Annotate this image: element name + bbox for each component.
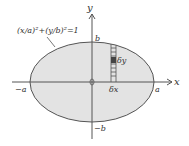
b-label: b bbox=[95, 34, 100, 43]
y-axis-label: y bbox=[86, 2, 93, 13]
dy-label: δy bbox=[117, 56, 127, 65]
ellipse-diagram: (x/a)²+(y/b)²=1 y x b −b a −a δy δx bbox=[0, 0, 189, 146]
area-element bbox=[111, 57, 116, 63]
dx-label: δx bbox=[109, 85, 119, 94]
equation-label: (x/a)²+(y/b)²=1 bbox=[17, 26, 79, 35]
a-label: a bbox=[155, 85, 160, 94]
x-axis-label: x bbox=[174, 76, 180, 87]
leader-line bbox=[47, 37, 55, 47]
neg-a-label: −a bbox=[15, 85, 27, 94]
neg-b-label: −b bbox=[94, 124, 106, 133]
